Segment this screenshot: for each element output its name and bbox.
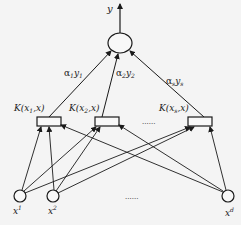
weight-label-s: αsys	[166, 76, 183, 87]
input-ellipsis: ......	[125, 193, 138, 201]
kernel-label-1: K(x1,x)	[13, 103, 45, 114]
kernel-ellipsis: ......	[142, 118, 155, 126]
input-node-1	[14, 190, 26, 202]
output-label: y	[106, 3, 113, 14]
kernel-node-2	[95, 117, 119, 126]
output-node	[108, 33, 132, 53]
kernel-label-s: K(xs,x)	[158, 103, 189, 114]
input-node-d	[222, 190, 234, 202]
kernel-label-2: K(x2,x)	[68, 103, 100, 114]
weight-edge-2	[102, 54, 118, 117]
kernel-node-1	[37, 117, 61, 126]
kernel-node-s	[188, 117, 212, 126]
weight-label-2: α2y2	[116, 68, 135, 79]
input-edges	[22, 125, 226, 193]
weight-label-1: α1y1	[64, 68, 83, 79]
input-label-d: xd	[225, 206, 234, 218]
diagram-svg: y α1y1 α2y2 αsys K(x1,x) K(x2,x) K(xs,x)…	[0, 0, 241, 225]
input-node-2	[47, 190, 59, 202]
svm-network-diagram: y α1y1 α2y2 αsys K(x1,x) K(x2,x) K(xs,x)…	[0, 0, 241, 225]
input-label-2: x2	[48, 204, 57, 216]
input-label-1: x1	[13, 204, 22, 216]
